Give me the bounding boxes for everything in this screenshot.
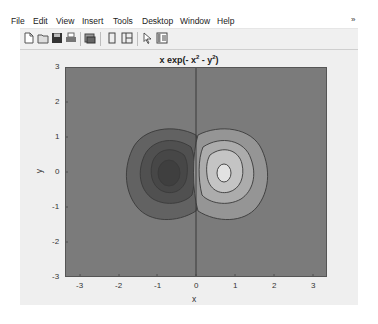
xtick-label: 3 <box>311 281 315 290</box>
save-icon[interactable] <box>51 32 63 44</box>
xtick-label: 1 <box>233 281 237 290</box>
ytick-label: 0 <box>55 167 59 176</box>
ytick-label: -2 <box>52 237 59 246</box>
positive-lobe <box>194 129 268 220</box>
new-file-icon[interactable] <box>23 32 35 44</box>
y-axis-label: y <box>34 169 44 173</box>
ytick-label: 1 <box>55 132 59 141</box>
toolbar-separator <box>100 32 101 46</box>
xtick-label: -2 <box>115 281 122 290</box>
print-icon[interactable] <box>65 32 77 44</box>
ytick-label: -3 <box>52 272 59 281</box>
xtick-label: -1 <box>154 281 161 290</box>
menu-desktop[interactable]: Desktop <box>142 16 173 26</box>
plot-axes[interactable] <box>65 67 327 277</box>
figure-toolbar <box>20 28 358 50</box>
contour-plot <box>65 67 327 277</box>
menu-expand-icon[interactable]: » <box>351 15 355 24</box>
negative-lobe <box>126 129 200 220</box>
menu-window[interactable]: Window <box>180 16 210 26</box>
toolbar-separator <box>137 32 138 46</box>
show-plot-tools-icon[interactable] <box>121 32 133 44</box>
xtick-label: -3 <box>76 281 83 290</box>
legend-icon[interactable] <box>156 32 168 44</box>
menu-insert[interactable]: Insert <box>82 16 103 26</box>
menu-edit[interactable]: Edit <box>33 16 48 26</box>
xtick-label: 2 <box>272 281 276 290</box>
ytick-label: -1 <box>52 202 59 211</box>
xtick-label: 0 <box>194 281 198 290</box>
menu-file[interactable]: File <box>11 16 25 26</box>
hide-plot-tools-icon[interactable] <box>106 32 118 44</box>
link-plot-icon[interactable] <box>84 32 96 44</box>
menu-bar: File Edit View Insert Tools Desktop Wind… <box>0 0 378 28</box>
menu-help[interactable]: Help <box>217 16 234 26</box>
menu-view[interactable]: View <box>56 16 74 26</box>
ytick-label: 3 <box>55 62 59 71</box>
menu-tools[interactable]: Tools <box>113 16 133 26</box>
toolbar-separator <box>80 32 81 46</box>
pointer-arrow-icon[interactable] <box>142 32 154 44</box>
x-axis-label: x <box>192 294 196 304</box>
open-folder-icon[interactable] <box>37 32 49 44</box>
ytick-label: 2 <box>55 97 59 106</box>
